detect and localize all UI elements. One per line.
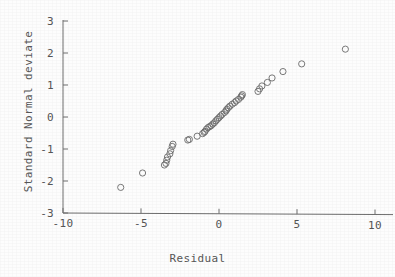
data-point <box>299 61 305 67</box>
y-tick-label: -2 <box>40 175 54 188</box>
x-tick-label: -10 <box>53 217 74 230</box>
data-point <box>269 75 275 81</box>
y-tick-label: 3 <box>47 15 54 28</box>
x-tick-label: 5 <box>294 218 301 231</box>
x-tick-label: 0 <box>216 218 223 231</box>
y-tick-label: 1 <box>47 79 54 92</box>
data-point <box>170 141 176 147</box>
y-tick-label: 0 <box>47 111 54 124</box>
data-point <box>280 68 286 74</box>
x-tick-label: -5 <box>134 217 148 230</box>
x-tick-label: 10 <box>368 219 382 232</box>
data-point <box>342 46 348 52</box>
data-point <box>139 170 145 176</box>
y-axis-title: Standard Normal deviate <box>22 31 35 193</box>
normal-probability-plot-figure: -3-2-10123-10-50510 Residual Standard No… <box>0 0 395 277</box>
y-axis-title-wrapper: Standard Normal deviate <box>17 2 36 222</box>
y-tick-label: 2 <box>47 47 54 60</box>
plot-canvas: -3-2-10123-10-50510 <box>0 0 395 277</box>
y-tick-label: -1 <box>40 143 54 156</box>
x-axis-line <box>63 213 393 215</box>
data-point <box>118 184 124 190</box>
data-point-group <box>118 46 349 190</box>
x-axis-title: Residual <box>0 252 395 265</box>
